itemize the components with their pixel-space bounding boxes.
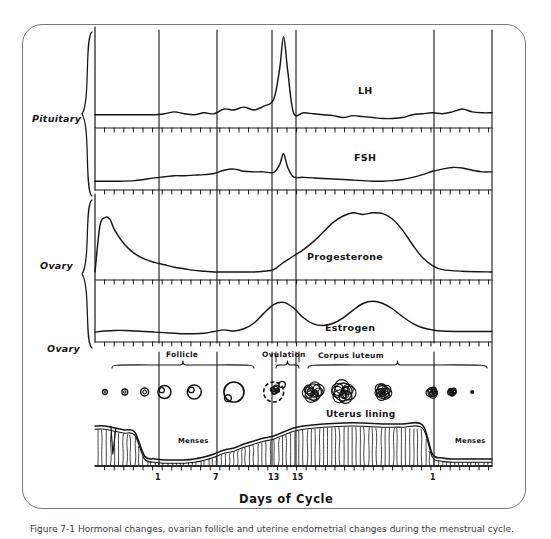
curve-label-lh: LH: [358, 85, 373, 96]
figure-root: Pituitary Ovary Ovary LH FSH Progesteron…: [0, 0, 551, 539]
curve-label-estrogen: Estrogen: [325, 322, 375, 333]
figure-caption: Figure 7-1 Hormonal changes, ovarian fol…: [30, 524, 530, 538]
curve-label-progesterone: Progesterone: [307, 251, 383, 262]
menses-label-right: Menses: [455, 437, 486, 445]
diagram-graphics: [82, 27, 492, 470]
menses-label-left: Menses: [178, 437, 209, 445]
axis-tick-day-0: 1: [155, 473, 161, 482]
axis-tick-day-2: 13: [268, 473, 280, 482]
side-label-ovary-structures: Ovary: [47, 343, 80, 354]
axis-tick-day-3: 15: [292, 473, 304, 482]
axis-tick-day-4: 1: [430, 473, 436, 482]
figure-stage: [0, 0, 551, 539]
side-label-pituitary: Pituitary: [32, 113, 81, 124]
side-label-ovary-hormones: Ovary: [40, 260, 73, 271]
axis-tick-day-1: 7: [213, 473, 219, 482]
phase-label-ovulation: Ovulation: [262, 350, 306, 359]
uterus-lining-label: Uterus lining: [326, 409, 395, 419]
phase-label-follicle: Follicle: [166, 350, 198, 359]
menstrual-cycle-diagram: [0, 0, 551, 539]
axis-title: Days of Cycle: [239, 492, 334, 506]
curve-label-fsh: FSH: [354, 152, 376, 163]
phase-label-corpus-luteum: Corpus luteum: [318, 351, 384, 360]
